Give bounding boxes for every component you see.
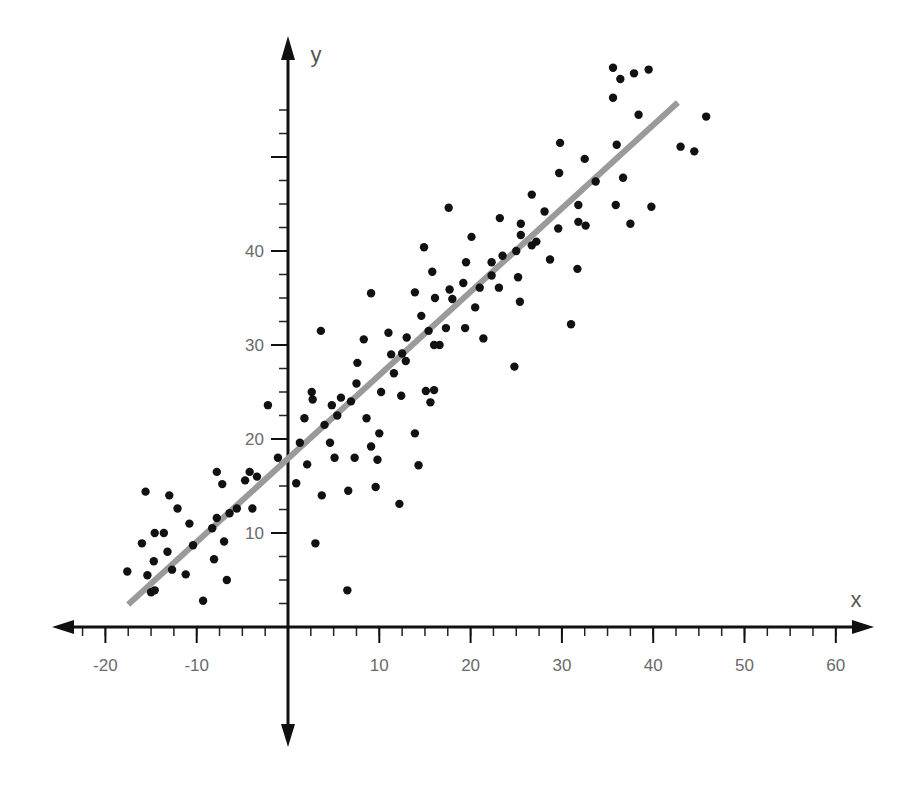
data-point bbox=[411, 288, 419, 296]
data-point bbox=[431, 294, 439, 302]
data-point bbox=[248, 504, 256, 512]
data-point bbox=[328, 401, 336, 409]
x-tick-label: 60 bbox=[826, 656, 845, 675]
data-point bbox=[612, 201, 620, 209]
data-point bbox=[626, 220, 634, 228]
data-point bbox=[616, 75, 624, 83]
data-point bbox=[516, 298, 524, 306]
data-point bbox=[326, 439, 334, 447]
data-point bbox=[367, 289, 375, 297]
data-point bbox=[264, 401, 272, 409]
data-point bbox=[208, 524, 216, 532]
data-point bbox=[220, 537, 228, 545]
data-point bbox=[487, 271, 495, 279]
data-point bbox=[479, 334, 487, 342]
data-point bbox=[517, 220, 525, 228]
data-point bbox=[241, 476, 249, 484]
data-point bbox=[390, 369, 398, 377]
y-axis-arrow-down-icon bbox=[281, 724, 295, 747]
data-point bbox=[143, 571, 151, 579]
data-point bbox=[402, 333, 410, 341]
data-point bbox=[647, 203, 655, 211]
data-point bbox=[318, 491, 326, 499]
x-tick-label: 10 bbox=[370, 656, 389, 675]
data-point bbox=[395, 500, 403, 508]
data-point bbox=[141, 487, 149, 495]
data-point bbox=[168, 565, 176, 573]
data-point bbox=[160, 529, 168, 537]
data-point bbox=[435, 341, 443, 349]
data-point bbox=[138, 539, 146, 547]
data-point bbox=[574, 201, 582, 209]
data-point bbox=[411, 429, 419, 437]
data-point bbox=[362, 414, 370, 422]
data-point bbox=[581, 221, 589, 229]
data-point bbox=[151, 529, 159, 537]
data-point bbox=[213, 514, 221, 522]
axes bbox=[52, 36, 874, 747]
data-point bbox=[245, 468, 253, 476]
data-point bbox=[471, 303, 479, 311]
data-point bbox=[540, 207, 548, 215]
data-point bbox=[213, 468, 221, 476]
data-point bbox=[581, 155, 589, 163]
data-point bbox=[347, 397, 355, 405]
data-point bbox=[397, 392, 405, 400]
data-point bbox=[353, 359, 361, 367]
data-point bbox=[303, 460, 311, 468]
data-point bbox=[402, 357, 410, 365]
data-point bbox=[424, 327, 432, 335]
data-point bbox=[487, 258, 495, 266]
data-point bbox=[337, 393, 345, 401]
data-point bbox=[317, 327, 325, 335]
data-point bbox=[182, 570, 190, 578]
data-point bbox=[292, 479, 300, 487]
data-point bbox=[461, 324, 469, 332]
data-point bbox=[517, 231, 525, 239]
data-point bbox=[308, 388, 316, 396]
data-point bbox=[512, 247, 520, 255]
data-point bbox=[150, 557, 158, 565]
x-tick-label: -10 bbox=[184, 656, 209, 675]
data-point bbox=[567, 320, 575, 328]
data-point bbox=[609, 94, 617, 102]
data-point bbox=[445, 285, 453, 293]
x-tick-label: 20 bbox=[461, 656, 480, 675]
data-point bbox=[189, 541, 197, 549]
data-point bbox=[573, 265, 581, 273]
data-point bbox=[444, 204, 452, 212]
data-point bbox=[165, 491, 173, 499]
data-point bbox=[532, 237, 540, 245]
data-point bbox=[459, 279, 467, 287]
data-point bbox=[320, 421, 328, 429]
x-axis-arrow-left-icon bbox=[52, 620, 74, 634]
data-point bbox=[498, 252, 506, 260]
data-point bbox=[426, 398, 434, 406]
x-axis-title: x bbox=[851, 587, 862, 612]
x-tick-label: 30 bbox=[552, 656, 571, 675]
data-point bbox=[574, 218, 582, 226]
data-point bbox=[375, 429, 383, 437]
data-point bbox=[619, 173, 627, 181]
data-point bbox=[467, 233, 475, 241]
data-point bbox=[210, 555, 218, 563]
data-point bbox=[702, 112, 710, 120]
data-point bbox=[333, 411, 341, 419]
data-point bbox=[311, 539, 319, 547]
data-point bbox=[609, 63, 617, 71]
y-axis-arrow-up-icon bbox=[281, 36, 295, 60]
y-tick-label: 40 bbox=[245, 242, 264, 261]
data-point bbox=[430, 386, 438, 394]
data-point bbox=[442, 324, 450, 332]
data-point bbox=[414, 461, 422, 469]
data-point bbox=[233, 504, 241, 512]
y-axis-title: y bbox=[311, 42, 322, 67]
tick-labels: -20-1010203040506010203040 bbox=[93, 242, 845, 675]
data-point bbox=[556, 139, 564, 147]
data-point bbox=[428, 267, 436, 275]
data-point bbox=[690, 147, 698, 155]
data-point bbox=[296, 439, 304, 447]
y-tick-label: 10 bbox=[245, 524, 264, 543]
data-point bbox=[546, 255, 554, 263]
data-point bbox=[253, 472, 261, 480]
